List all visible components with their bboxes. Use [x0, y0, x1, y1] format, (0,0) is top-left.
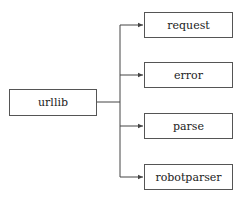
node-urllib: urllib — [9, 89, 97, 116]
node-label: urllib — [38, 96, 68, 109]
node-label: robotparser — [155, 171, 221, 184]
node-parse: parse — [144, 113, 233, 139]
node-label: error — [174, 69, 203, 82]
node-label: parse — [173, 120, 204, 133]
node-robotparser: robotparser — [144, 164, 233, 190]
node-error: error — [144, 62, 233, 88]
node-request: request — [144, 12, 233, 38]
node-label: request — [167, 19, 209, 32]
